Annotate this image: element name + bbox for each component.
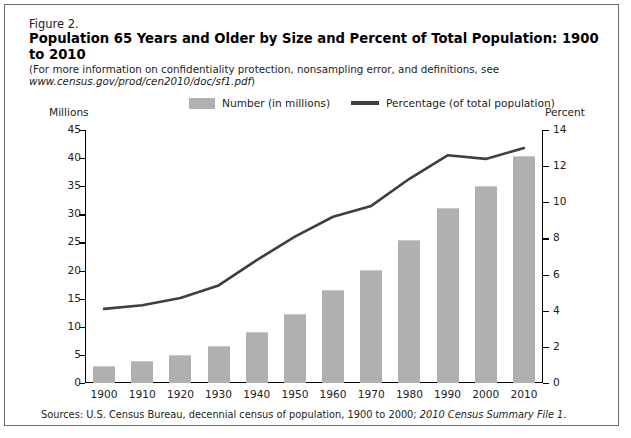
left-axis-tick-label: 40 — [68, 151, 81, 163]
legend-line-label: Percentage (of total population) — [386, 97, 555, 109]
figure-note-close: ) — [251, 75, 255, 87]
x-axis-label-2010: 2010 — [500, 388, 548, 400]
legend-item-percentage: Percentage (of total population) — [351, 97, 555, 109]
left-axis-tick-label: 30 — [68, 207, 81, 219]
sources-note: Sources: U.S. Census Bureau, decennial c… — [41, 409, 566, 420]
figure-title: Population 65 Years and Older by Size an… — [29, 31, 599, 62]
right-axis-tick-label: 12 — [553, 159, 566, 171]
left-axis-tick-label: 45 — [68, 123, 81, 135]
left-axis-tick-label: 5 — [74, 348, 81, 360]
left-axis-caption: Millions — [49, 106, 89, 118]
right-axis-tick-label: 2 — [553, 340, 560, 352]
sources-text-italic: 2010 Census Summary File 1 — [420, 409, 564, 420]
legend-line-swatch-icon — [351, 101, 379, 105]
plot-area: 454035302520151050 14121086420 190019101… — [85, 130, 543, 383]
right-axis-tick — [543, 275, 549, 276]
figure-note-url-2: /prod/cen2010/doc/sf1.pdf — [115, 75, 251, 87]
left-axis-tick-label: 10 — [68, 320, 81, 332]
chart-legend: Number (in millions) Percentage (of tota… — [29, 97, 601, 113]
right-axis-tick — [543, 166, 549, 167]
legend-item-number: Number (in millions) — [189, 97, 330, 109]
right-axis-tick — [543, 202, 549, 203]
left-axis-tick-label: 25 — [68, 235, 81, 247]
right-axis-caption: Percent — [545, 106, 585, 118]
right-axis-tick-label: 4 — [553, 304, 560, 316]
sources-text-1: Sources: U.S. Census Bureau, decennial c… — [41, 409, 420, 420]
right-axis-tick — [543, 383, 549, 384]
right-axis-tick — [543, 347, 549, 348]
right-axis-tick-label: 8 — [553, 231, 560, 243]
right-axis-tick-label: 14 — [553, 123, 566, 135]
percentage-polyline — [104, 148, 524, 309]
percentage-line-series — [85, 130, 543, 383]
left-axis-tick-label: 15 — [68, 292, 81, 304]
figure-panel: Figure 2. Population 65 Years and Older … — [4, 4, 619, 426]
right-axis-tick — [543, 311, 549, 312]
legend-bar-label: Number (in millions) — [222, 97, 330, 109]
right-axis-tick-label: 6 — [553, 268, 560, 280]
sources-text-2: . — [563, 409, 566, 420]
left-axis-tick-label: 0 — [74, 376, 81, 388]
right-axis-tick — [543, 238, 549, 239]
right-axis-tick-label: 0 — [553, 376, 560, 388]
left-axis-tick-label: 20 — [68, 264, 81, 276]
figure-note-text: (For more information on confidentiality… — [29, 63, 499, 75]
figure-number: Figure 2. — [29, 17, 79, 31]
figure-note: (For more information on confidentiality… — [29, 63, 601, 88]
legend-bar-swatch-icon — [189, 98, 215, 109]
figure-note-url-1: www.census.gov — [29, 75, 115, 87]
right-axis-tick-label: 10 — [553, 195, 566, 207]
right-axis-tick — [543, 130, 549, 131]
left-axis-tick-label: 35 — [68, 179, 81, 191]
